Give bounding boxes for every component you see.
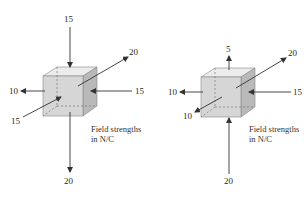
cube-a-label-lower-left: 15 <box>11 116 20 126</box>
cube-b-label-bottom: 20 <box>224 176 233 186</box>
cube-a-label-right: 15 <box>135 86 144 96</box>
cube-b <box>201 68 255 117</box>
cube-b-label-upper-right: 20 <box>288 48 297 58</box>
cube-a-label-bottom: 20 <box>64 176 73 186</box>
diagram-canvas <box>0 0 307 198</box>
cube-a-label-top: 15 <box>64 14 73 24</box>
cube-b-units-note: Field strengths in N/C <box>249 124 299 144</box>
cube-b-label-right: 15 <box>293 87 302 97</box>
cube-b-label-left: 10 <box>168 87 177 97</box>
cube-b-label-top: 5 <box>226 44 231 54</box>
cube-a-side-face <box>83 67 97 116</box>
cube-b-side-face <box>241 68 255 117</box>
cube-a-label-upper-right: 20 <box>129 47 138 57</box>
cube-a-label-left: 10 <box>9 86 18 96</box>
cube-b-front-face <box>201 77 241 117</box>
cube-b-label-lower-left: 10 <box>183 111 192 121</box>
cube-a <box>43 67 97 116</box>
cube-a-units-note: Field strengths in N/C <box>91 124 141 144</box>
cube-a-front-face <box>43 76 83 116</box>
